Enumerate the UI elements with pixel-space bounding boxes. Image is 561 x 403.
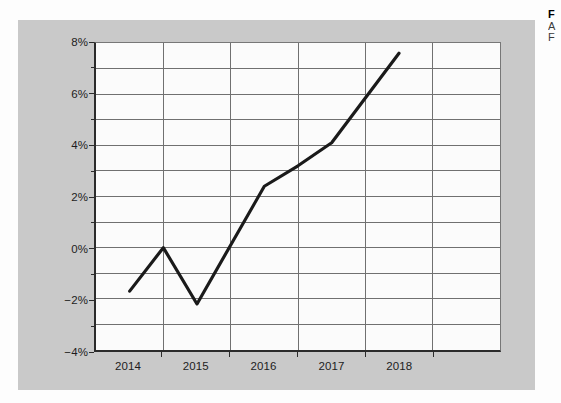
y-tick-label: −2% (64, 294, 88, 306)
x-tick-label: 2016 (251, 360, 277, 372)
y-tick-label: −4% (64, 346, 88, 358)
x-tick-label: 2015 (183, 360, 209, 372)
plot-area (94, 42, 501, 352)
chart-panel: 8%6%4%2%0%−2%−4% 20142015201620172018 (18, 20, 535, 390)
y-tick-label: 6% (71, 88, 88, 100)
y-tick-label: 8% (71, 36, 88, 48)
caption-title: F (548, 9, 561, 21)
y-tick-label: 4% (71, 139, 88, 151)
figure-caption: F A F (548, 9, 561, 44)
x-tick-label: 2018 (386, 360, 412, 372)
x-axis-tick-labels: 20142015201620172018 (94, 360, 501, 380)
caption-line-3: F (548, 32, 561, 44)
chart-series-line (96, 43, 500, 350)
y-tick-label: 0% (71, 243, 88, 255)
y-tick-label: 2% (71, 191, 88, 203)
y-axis-tick-labels: 8%6%4%2%0%−2%−4% (36, 42, 88, 352)
x-tick-label: 2017 (318, 360, 344, 372)
x-tick-label: 2014 (115, 360, 141, 372)
